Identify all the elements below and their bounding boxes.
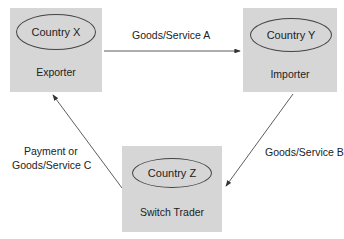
country-y-ellipse: Country Y — [250, 18, 332, 52]
country-z-ellipse: Country Z — [132, 158, 212, 188]
node-switch-trader: Country Z Switch Trader — [122, 146, 222, 232]
arrow-z-to-x — [53, 95, 122, 188]
node-exporter: Country X Exporter — [10, 8, 102, 92]
edge-label-goods-service-b: Goods/Service B — [265, 145, 344, 159]
importer-label: Importer — [243, 68, 337, 80]
arrow-y-to-z — [226, 94, 293, 186]
switch-trader-label: Switch Trader — [122, 206, 222, 218]
country-x-label: Country X — [32, 26, 81, 38]
node-importer: Country Y Importer — [243, 8, 337, 92]
exporter-label: Exporter — [10, 66, 102, 78]
country-z-label: Country Z — [148, 167, 196, 179]
country-y-label: Country Y — [267, 29, 316, 41]
edge-label-payment-line2: Goods/Service C — [12, 158, 91, 172]
country-x-ellipse: Country X — [16, 14, 96, 50]
edge-label-payment-line1: Payment or — [24, 144, 78, 158]
edge-label-goods-service-a: Goods/Service A — [132, 28, 210, 42]
